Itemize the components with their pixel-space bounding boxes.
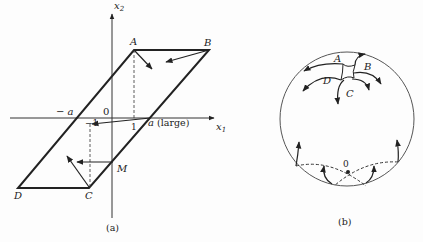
axis-x1-label: x1 [216,121,226,134]
caption-a: (a) [106,222,119,233]
axis-x2-label: x2 [114,0,125,13]
arrow-from-C [67,156,89,187]
b-point-B-label: B [363,61,371,72]
a-note: (large) [157,117,189,128]
figure-b: A B D C 0 (b) [280,52,414,227]
b-origin-label: 0 [343,159,349,169]
traj-B-right [354,72,381,84]
b-point-A-label: A [333,53,341,64]
traj-bottom-far-left [296,142,299,166]
caption-b: (b) [338,216,352,227]
point-M-label: M [116,163,128,174]
a-label: a [148,117,154,128]
point-A-label: A [129,36,137,47]
one-label: 1 [131,122,137,132]
traj-A-left [304,64,343,71]
b-point-C-label: C [346,88,354,99]
point-B-label: B [203,37,211,48]
origin-label: 0 [103,106,109,117]
b-point-D-label: D [322,75,331,86]
traj-bottom-far-right [397,140,398,162]
traj-C-right [352,79,369,90]
curved-quad-ABCD [341,64,355,80]
neg-a-label: − a [56,106,74,117]
origin-point [346,170,350,174]
traj-D-left [303,78,341,91]
neg-one-label: −1 [85,118,98,128]
arrow-from-a [92,118,150,124]
point-D-label: D [13,190,22,201]
figure-canvas: x2 x1 0 − a −1 1 a (large) A B C D M (a) [0,0,423,242]
traj-bottom-left [324,166,332,184]
figure-a: x2 x1 0 − a −1 1 a (large) A B C D M (a) [10,0,226,233]
point-C-label: C [85,190,93,201]
traj-C-down [338,80,344,104]
arrow-from-A [134,50,152,69]
